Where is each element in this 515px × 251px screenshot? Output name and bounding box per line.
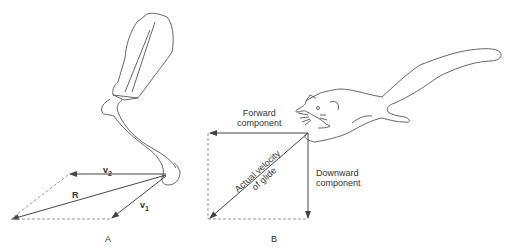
forward-line1: Forward: [237, 108, 282, 118]
forward-line2: component: [237, 118, 282, 128]
flying-squirrel-drawing: [296, 49, 501, 142]
panel-a-label: A: [105, 234, 111, 244]
downward-line2: component: [316, 178, 361, 188]
downward-component-label: Downward component: [316, 168, 361, 188]
wing-bones-drawing: [101, 13, 180, 185]
v2-subscript: 2: [108, 170, 112, 177]
forward-component-label: Forward component: [237, 108, 282, 128]
vector-v1-label: v1: [140, 200, 149, 214]
resultant-r-label: R: [72, 190, 79, 200]
panel-b-label: B: [271, 234, 277, 244]
downward-line1: Downward: [316, 168, 361, 178]
vector-v2-label: v2: [103, 165, 112, 179]
v1-subscript: 1: [145, 205, 149, 212]
